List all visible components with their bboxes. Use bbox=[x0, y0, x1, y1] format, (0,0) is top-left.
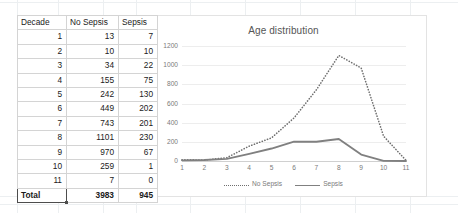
x-tick-label: 2 bbox=[197, 164, 211, 171]
cell-no-sepsis[interactable]: 10 bbox=[67, 44, 119, 58]
table-row[interactable]: 10 259 1 bbox=[18, 160, 158, 174]
cell-total-label[interactable]: Total bbox=[18, 188, 67, 202]
age-distribution-chart[interactable]: Age distribution 1200 1000 800 600 400 2… bbox=[140, 15, 427, 197]
table-row[interactable]: 8 1101 230 bbox=[18, 131, 158, 145]
x-tick-label: 4 bbox=[242, 164, 256, 171]
cell-sepsis[interactable]: 130 bbox=[119, 88, 158, 102]
data-table: Decade No Sepsis Sepsis 1 13 7 2 10 10 3 bbox=[17, 15, 158, 203]
column-header-no-sepsis[interactable]: No Sepsis bbox=[67, 16, 119, 30]
cell-sepsis[interactable]: 22 bbox=[119, 59, 158, 73]
cell-sepsis[interactable]: 67 bbox=[119, 145, 158, 159]
cell-no-sepsis[interactable]: 155 bbox=[67, 73, 119, 87]
x-tick-label: 3 bbox=[220, 164, 234, 171]
cell-sepsis[interactable]: 75 bbox=[119, 73, 158, 87]
cell-no-sepsis[interactable]: 34 bbox=[67, 59, 119, 73]
plot-area bbox=[182, 46, 406, 161]
cell-decade[interactable]: 7 bbox=[18, 116, 67, 130]
cell-no-sepsis[interactable]: 242 bbox=[67, 88, 119, 102]
x-axis-labels: 1 2 3 4 5 6 7 8 9 10 11 bbox=[182, 164, 406, 176]
cell-decade[interactable]: 8 bbox=[18, 131, 67, 145]
sepsis-decade-table[interactable]: Decade No Sepsis Sepsis 1 13 7 2 10 10 3 bbox=[17, 15, 158, 203]
series-line-sepsis bbox=[182, 139, 406, 161]
cell-decade[interactable]: 1 bbox=[18, 30, 67, 44]
cell-sepsis[interactable]: 1 bbox=[119, 160, 158, 174]
cell-no-sepsis[interactable]: 449 bbox=[67, 102, 119, 116]
legend-item-no-sepsis[interactable]: No Sepsis bbox=[224, 180, 282, 187]
cell-decade[interactable]: 2 bbox=[18, 44, 67, 58]
x-tick-label: 10 bbox=[377, 164, 391, 171]
table-body: 1 13 7 2 10 10 3 34 22 4 155 75 bbox=[18, 30, 158, 203]
legend-item-sepsis[interactable]: Sepsis bbox=[295, 180, 343, 187]
cell-no-sepsis[interactable]: 259 bbox=[67, 160, 119, 174]
table-header-row: Decade No Sepsis Sepsis bbox=[18, 16, 158, 30]
x-tick-label: 9 bbox=[354, 164, 368, 171]
table-row[interactable]: 3 34 22 bbox=[18, 59, 158, 73]
chart-title: Age distribution bbox=[141, 25, 426, 36]
x-tick-label: 1 bbox=[175, 164, 189, 171]
cell-no-sepsis[interactable]: 743 bbox=[67, 116, 119, 130]
cell-decade[interactable]: 6 bbox=[18, 102, 67, 116]
column-header-decade[interactable]: Decade bbox=[18, 16, 67, 30]
table-row[interactable]: 1 13 7 bbox=[18, 30, 158, 44]
table-row[interactable]: 4 155 75 bbox=[18, 73, 158, 87]
x-tick-label: 11 bbox=[399, 164, 413, 171]
cell-decade[interactable]: 11 bbox=[18, 174, 67, 188]
cell-decade[interactable]: 3 bbox=[18, 59, 67, 73]
cell-decade[interactable]: 10 bbox=[18, 160, 67, 174]
chart-legend[interactable]: No Sepsis Sepsis bbox=[141, 180, 426, 187]
table-row[interactable]: 7 743 201 bbox=[18, 116, 158, 130]
cell-no-sepsis[interactable]: 970 bbox=[67, 145, 119, 159]
table-row[interactable]: 2 10 10 bbox=[18, 44, 158, 58]
cell-sepsis[interactable]: 7 bbox=[119, 30, 158, 44]
spreadsheet-screenshot: Decade No Sepsis Sepsis 1 13 7 2 10 10 3 bbox=[0, 0, 458, 213]
x-tick-label: 8 bbox=[332, 164, 346, 171]
cell-sepsis[interactable]: 202 bbox=[119, 102, 158, 116]
legend-dotted-line-icon bbox=[224, 182, 249, 186]
series-lines bbox=[182, 46, 406, 162]
series-line-no-sepsis bbox=[182, 55, 406, 160]
cell-decade[interactable]: 5 bbox=[18, 88, 67, 102]
cell-sepsis[interactable]: 0 bbox=[119, 174, 158, 188]
legend-label-sepsis: Sepsis bbox=[323, 180, 343, 187]
cell-decade[interactable]: 9 bbox=[18, 145, 67, 159]
x-tick-label: 6 bbox=[287, 164, 301, 171]
table-row[interactable]: 9 970 67 bbox=[18, 145, 158, 159]
cell-decade[interactable]: 4 bbox=[18, 73, 67, 87]
table-row[interactable]: 5 242 130 bbox=[18, 88, 158, 102]
x-tick-label: 5 bbox=[265, 164, 279, 171]
cell-total-sepsis[interactable]: 945 bbox=[119, 188, 158, 202]
legend-label-no-sepsis: No Sepsis bbox=[252, 180, 282, 187]
column-header-sepsis[interactable]: Sepsis bbox=[119, 16, 158, 30]
cell-no-sepsis[interactable]: 13 bbox=[67, 30, 119, 44]
table-row[interactable]: 6 449 202 bbox=[18, 102, 158, 116]
x-tick-label: 7 bbox=[309, 164, 323, 171]
legend-solid-line-icon bbox=[295, 182, 320, 186]
cell-sepsis[interactable]: 230 bbox=[119, 131, 158, 145]
table-total-row[interactable]: Total 3983 945 bbox=[18, 188, 158, 202]
cell-no-sepsis[interactable]: 1101 bbox=[67, 131, 119, 145]
cell-total-no-sepsis[interactable]: 3983 bbox=[67, 188, 119, 202]
cell-sepsis[interactable]: 201 bbox=[119, 116, 158, 130]
cell-sepsis[interactable]: 10 bbox=[119, 44, 158, 58]
cell-no-sepsis[interactable]: 7 bbox=[67, 174, 119, 188]
table-row[interactable]: 11 7 0 bbox=[18, 174, 158, 188]
